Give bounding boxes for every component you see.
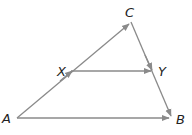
- triangle-diagram: A B C X Y: [0, 0, 192, 135]
- label-a: A: [1, 111, 11, 126]
- segment-cb-mid-arrow: [145, 55, 152, 70]
- label-c: C: [125, 5, 135, 20]
- label-b: B: [176, 112, 185, 127]
- label-y: Y: [158, 64, 167, 79]
- label-x: X: [56, 64, 67, 79]
